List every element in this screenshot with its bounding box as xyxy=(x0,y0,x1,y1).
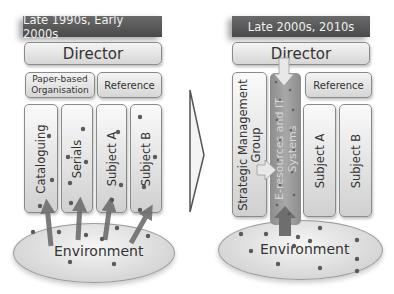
dot-pattern-right xyxy=(239,226,359,273)
chevron-right-icon xyxy=(190,90,204,212)
arrow-right-icon xyxy=(257,160,276,180)
network-pattern xyxy=(275,81,296,216)
arrow-up-icon xyxy=(274,206,296,236)
diagram-overlay xyxy=(0,0,394,294)
arrow-up-icon xyxy=(47,204,149,246)
